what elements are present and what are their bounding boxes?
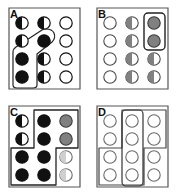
circle-c-r3c2[interactable]	[38, 151, 50, 163]
circle-d-r1c2[interactable]	[126, 115, 138, 127]
circle-b-r3c3[interactable]	[148, 53, 160, 65]
circle-b-r1c1[interactable]	[104, 17, 116, 29]
circle-b-r4c1[interactable]	[104, 71, 116, 83]
panel-c-canvas	[0, 98, 88, 195]
circle-c-r1c2[interactable]	[38, 115, 50, 127]
circle-b-r4c3[interactable]	[148, 71, 160, 83]
circle-a-r4c1[interactable]	[16, 71, 28, 83]
circle-c-r2c3[interactable]	[60, 133, 72, 145]
circle-d-r1c3[interactable]	[148, 115, 160, 127]
circle-c-r2c1[interactable]	[16, 133, 28, 145]
circle-b-r4c2[interactable]	[126, 71, 138, 83]
panel-b[interactable]: B	[88, 0, 176, 97]
circle-b-r2c2[interactable]	[126, 35, 138, 47]
circle-b-r3c1[interactable]	[104, 53, 116, 65]
circle-b-r1c3[interactable]	[148, 17, 160, 29]
circle-a-r3c1[interactable]	[16, 53, 28, 65]
circle-d-r4c1[interactable]	[104, 169, 116, 181]
circle-d-r4c3[interactable]	[148, 169, 160, 181]
circle-d-r1c1[interactable]	[104, 115, 116, 127]
circle-a-r3c2[interactable]	[38, 53, 50, 65]
circle-c-r4c2[interactable]	[38, 169, 50, 181]
circle-b-r2c3[interactable]	[148, 35, 160, 47]
circle-a-r2c3[interactable]	[60, 35, 72, 47]
circle-a-r4c3[interactable]	[60, 71, 72, 83]
circle-d-r3c1[interactable]	[104, 151, 116, 163]
circle-b-r2c1[interactable]	[104, 35, 116, 47]
circle-a-r4c2[interactable]	[38, 71, 50, 83]
circle-d-r2c1[interactable]	[104, 133, 116, 145]
panel-c[interactable]: C	[0, 98, 88, 195]
circle-c-r2c2[interactable]	[38, 133, 50, 145]
circle-c-r1c1[interactable]	[16, 115, 28, 127]
circle-a-r2c2[interactable]	[38, 35, 50, 47]
circle-b-r3c2[interactable]	[126, 53, 138, 65]
circle-c-r3c3[interactable]	[60, 151, 72, 163]
circle-d-r2c3[interactable]	[148, 133, 160, 145]
circle-c-r4c1[interactable]	[16, 169, 28, 181]
circle-a-r1c2[interactable]	[38, 17, 50, 29]
circle-a-r1c1[interactable]	[16, 17, 28, 29]
circle-c-r1c3[interactable]	[60, 115, 72, 127]
panel-a[interactable]: A	[0, 0, 88, 97]
figure-root: A	[0, 0, 176, 195]
panel-b-canvas	[88, 0, 176, 97]
circle-d-r3c2[interactable]	[126, 151, 138, 163]
panel-a-canvas	[0, 0, 88, 97]
circle-d-r4c2[interactable]	[126, 169, 138, 181]
panel-d-canvas	[88, 98, 176, 195]
circle-a-r1c3[interactable]	[60, 17, 72, 29]
circle-a-r2c1[interactable]	[16, 35, 28, 47]
circle-c-r4c3[interactable]	[60, 169, 72, 181]
circle-d-r3c3[interactable]	[148, 151, 160, 163]
circle-a-r3c3[interactable]	[60, 53, 72, 65]
circle-d-r2c2[interactable]	[126, 133, 138, 145]
circle-b-r1c2[interactable]	[126, 17, 138, 29]
panel-d[interactable]: D	[88, 98, 176, 195]
circle-c-r3c1[interactable]	[16, 151, 28, 163]
